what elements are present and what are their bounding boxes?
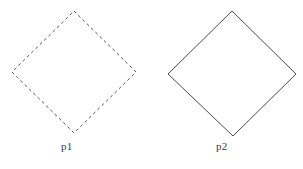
figure-canvas [0, 0, 303, 169]
dashed-diamond-p1 [12, 11, 136, 133]
figure-container: p1 p2 [0, 0, 303, 169]
solid-diamond-p2 [168, 11, 296, 136]
shape-label-p2: p2 [216, 141, 227, 152]
shape-label-p1: p1 [61, 141, 72, 152]
